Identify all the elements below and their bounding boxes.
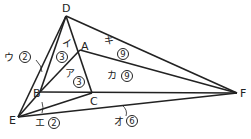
area-value-ka: 9 [124, 71, 129, 81]
point-label-C: C [90, 95, 98, 108]
area-kana-i: イ [62, 38, 72, 49]
area-kana-a: ア [65, 68, 75, 79]
point-label-D: D [62, 2, 70, 15]
area-value-e: 2 [51, 118, 56, 128]
segment-EF [18, 93, 237, 117]
point-label-A: A [81, 40, 89, 53]
area-kana-u: ウ [4, 52, 14, 63]
leader-o [122, 105, 127, 116]
point-label-F: F [240, 87, 246, 100]
point-label-E: E [9, 114, 16, 127]
point-label-B: B [33, 87, 41, 100]
segment-DF [66, 16, 237, 93]
area-value-u: 2 [22, 52, 27, 62]
geometry-diagram: D A B C E F イ 3 ア 3 ウ 2 エ 2 オ 6 カ 9 キ 9 [0, 0, 251, 139]
area-kana-e: エ [35, 117, 45, 128]
segment-BF [40, 92, 237, 93]
area-value-a: 3 [76, 77, 81, 87]
area-value-ki: 9 [120, 49, 125, 59]
segment-AF [80, 50, 237, 93]
area-kana-o: オ [114, 116, 124, 127]
segment-DE [18, 16, 66, 117]
area-value-i: 3 [59, 52, 64, 62]
leader-e [42, 102, 43, 113]
area-value-o: 6 [129, 116, 134, 126]
area-kana-ka: カ [107, 70, 117, 81]
area-kana-ki: キ [104, 35, 114, 46]
